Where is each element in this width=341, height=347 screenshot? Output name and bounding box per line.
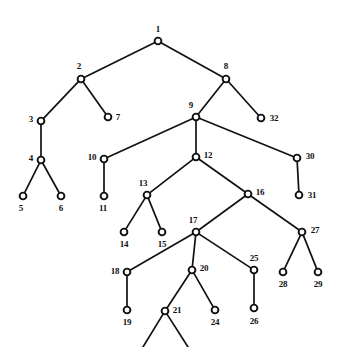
tree-node-7[interactable] — [105, 114, 112, 121]
tree-node-30[interactable] — [294, 155, 301, 162]
tree-node-label-25: 25 — [250, 254, 259, 263]
tree-node-21[interactable] — [162, 308, 169, 315]
tree-node-label-16: 16 — [256, 188, 265, 197]
tree-node-16[interactable] — [245, 191, 252, 198]
tree-node-18[interactable] — [124, 269, 131, 276]
tree-node-label-26: 26 — [250, 317, 259, 326]
edge-8-32 — [228, 82, 258, 116]
tree-node-4[interactable] — [38, 157, 45, 164]
tree-node-label-2: 2 — [77, 62, 81, 71]
tree-diagram: 1234567891011121314151617181920212425262… — [0, 0, 341, 347]
tree-node-10[interactable] — [101, 156, 108, 163]
tree-node-6[interactable] — [58, 193, 65, 200]
tree-node-label-30: 30 — [306, 152, 315, 161]
tree-node-31[interactable] — [296, 192, 303, 199]
tree-node-17[interactable] — [193, 229, 200, 236]
tree-node-label-4: 4 — [29, 154, 33, 163]
tree-node-20[interactable] — [189, 267, 196, 274]
tree-node-5[interactable] — [20, 193, 27, 200]
tree-node-label-13: 13 — [139, 179, 148, 188]
tree-node-14[interactable] — [121, 229, 128, 236]
tree-node-label-17: 17 — [189, 216, 198, 225]
edge-9-10 — [107, 118, 193, 157]
tree-node-32[interactable] — [258, 115, 265, 122]
tree-node-3[interactable] — [38, 118, 45, 125]
edge-13-15 — [148, 198, 160, 229]
tree-node-label-28: 28 — [279, 280, 288, 289]
tree-node-9[interactable] — [193, 114, 200, 121]
tree-node-label-27: 27 — [311, 226, 320, 235]
tree-node-label-29: 29 — [314, 280, 323, 289]
tree-node-label-20: 20 — [200, 264, 209, 273]
tree-node-8[interactable] — [223, 76, 230, 83]
edge-16-27 — [251, 196, 299, 230]
tree-node-13[interactable] — [144, 192, 151, 199]
edge-layer — [25, 43, 317, 347]
edge-1-2 — [84, 43, 155, 78]
edge-30-31 — [297, 161, 299, 191]
tree-node-19[interactable] — [124, 307, 131, 314]
tree-node-12[interactable] — [193, 154, 200, 161]
edge-2-3 — [43, 81, 78, 118]
tree-node-label-7: 7 — [116, 113, 120, 122]
edge-9-30 — [199, 118, 294, 156]
tree-node-label-18: 18 — [111, 267, 120, 276]
edge-1-8 — [161, 43, 223, 78]
tree-node-label-11: 11 — [99, 204, 107, 213]
tree-node-label-3: 3 — [29, 115, 33, 124]
tree-node-label-14: 14 — [120, 240, 129, 249]
tree-node-label-12: 12 — [204, 151, 213, 160]
tree-node-1[interactable] — [155, 38, 162, 45]
edge-16-17 — [199, 196, 246, 230]
edge-21-clipped-0 — [143, 314, 163, 347]
tree-node-label-8: 8 — [224, 62, 228, 71]
tree-node-label-31: 31 — [308, 191, 317, 200]
edge-2-7 — [83, 82, 106, 114]
edge-4-5 — [25, 163, 40, 193]
tree-node-label-10: 10 — [88, 153, 97, 162]
tree-node-label-6: 6 — [59, 204, 63, 213]
tree-node-29[interactable] — [315, 269, 322, 276]
edge-27-28 — [284, 235, 300, 269]
tree-node-25[interactable] — [251, 267, 258, 274]
tree-node-15[interactable] — [159, 229, 166, 236]
edge-27-29 — [303, 235, 316, 269]
tree-node-24[interactable] — [212, 307, 219, 314]
tree-node-label-32: 32 — [270, 114, 279, 123]
edge-12-16 — [199, 159, 245, 192]
tree-node-label-5: 5 — [19, 204, 23, 213]
tree-node-label-9: 9 — [189, 101, 193, 110]
tree-graph-canvas — [0, 0, 341, 347]
edge-17-20 — [192, 235, 195, 266]
edge-21-clipped-1 — [167, 314, 188, 347]
tree-node-28[interactable] — [280, 269, 287, 276]
tree-node-label-15: 15 — [158, 240, 167, 249]
tree-node-label-21: 21 — [173, 306, 182, 315]
edge-20-21 — [167, 273, 190, 308]
edge-20-24 — [194, 273, 214, 307]
tree-node-27[interactable] — [299, 229, 306, 236]
tree-node-label-19: 19 — [123, 318, 132, 327]
tree-node-26[interactable] — [251, 305, 258, 312]
tree-node-label-24: 24 — [211, 318, 220, 327]
edge-13-14 — [126, 198, 145, 229]
tree-node-label-1: 1 — [156, 25, 160, 34]
edge-8-9 — [198, 82, 224, 115]
tree-node-11[interactable] — [101, 193, 108, 200]
tree-node-2[interactable] — [78, 76, 85, 83]
edge-12-13 — [150, 159, 194, 193]
edge-4-6 — [43, 163, 60, 193]
